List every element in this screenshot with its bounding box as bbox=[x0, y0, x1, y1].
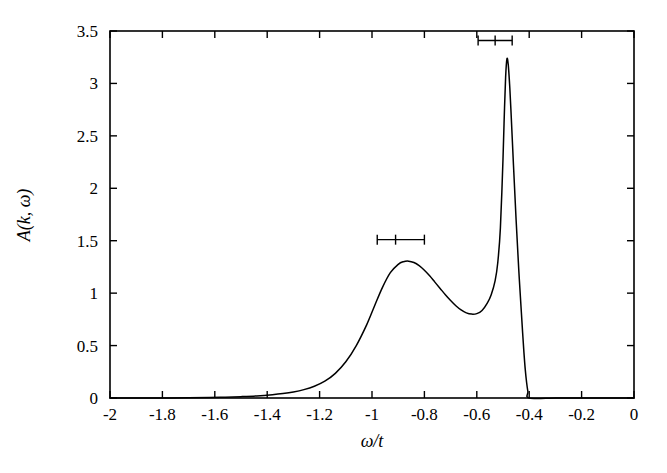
y-tick-label: 2 bbox=[90, 179, 99, 198]
y-axis-ticks-left bbox=[110, 31, 117, 398]
x-tick-label: -1.4 bbox=[254, 405, 281, 424]
y-tick-label: 3 bbox=[90, 74, 99, 93]
y-tick-label: 0.5 bbox=[77, 337, 98, 356]
spectral-function-curve bbox=[110, 58, 634, 398]
x-axis-title: ω/t bbox=[361, 431, 385, 451]
x-tick-label: -0.6 bbox=[463, 405, 490, 424]
x-tick-label: -1.2 bbox=[306, 405, 333, 424]
plot-canvas: -2-1.8-1.6-1.4-1.2-1-0.8-0.6-0.4-0.20 00… bbox=[0, 0, 667, 473]
y-axis-title: A(k, ω) bbox=[14, 189, 35, 243]
plot-frame bbox=[110, 31, 634, 398]
x-tick-label: -0.2 bbox=[568, 405, 595, 424]
x-tick-label: -1 bbox=[365, 405, 379, 424]
y-axis-ticks-right bbox=[627, 31, 634, 398]
x-tick-label: -1.8 bbox=[149, 405, 176, 424]
y-tick-label: 3.5 bbox=[77, 22, 98, 41]
x-tick-label: -0.8 bbox=[411, 405, 438, 424]
y-tick-label: 1 bbox=[90, 284, 99, 303]
error-bar-broad-peak bbox=[377, 235, 424, 245]
x-tick-label: 0 bbox=[630, 405, 639, 424]
y-tick-label: 0 bbox=[90, 389, 99, 408]
x-axis-tick-labels: -2-1.8-1.6-1.4-1.2-1-0.8-0.6-0.4-0.20 bbox=[103, 405, 638, 424]
x-tick-label: -1.6 bbox=[201, 405, 228, 424]
error-bar-quasiparticle-peak bbox=[478, 35, 512, 45]
x-axis-ticks-bottom bbox=[110, 391, 634, 398]
x-tick-label: -0.4 bbox=[516, 405, 543, 424]
y-tick-label: 1.5 bbox=[77, 232, 98, 251]
x-axis-ticks-top bbox=[110, 31, 634, 38]
error-bar-annotations bbox=[377, 35, 512, 244]
spectral-function-figure: -2-1.8-1.6-1.4-1.2-1-0.8-0.6-0.4-0.20 00… bbox=[0, 0, 667, 473]
y-axis-tick-labels: 00.511.522.533.5 bbox=[77, 22, 98, 408]
x-tick-label: -2 bbox=[103, 405, 117, 424]
y-tick-label: 2.5 bbox=[77, 127, 98, 146]
